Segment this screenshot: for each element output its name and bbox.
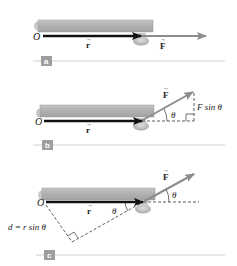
panel-c: O r → F → θ θ d = r sin θ c bbox=[8, 167, 225, 260]
panel-a: O r → F → a bbox=[33, 20, 225, 66]
angle-label-force: θ bbox=[172, 190, 177, 200]
svg-text:a: a bbox=[44, 57, 49, 66]
moment-arm-construction bbox=[46, 202, 199, 242]
bar bbox=[38, 188, 155, 200]
angle-arc-force bbox=[166, 189, 169, 202]
f-label: F → bbox=[163, 167, 169, 182]
torque-diagram: O r → F → a bbox=[0, 0, 237, 266]
svg-text:F: F bbox=[160, 41, 166, 51]
bar bbox=[34, 20, 153, 32]
right-angle-mark bbox=[68, 232, 78, 238]
bar bbox=[36, 105, 154, 118]
svg-text:→: → bbox=[160, 36, 166, 42]
svg-text:→: → bbox=[86, 121, 92, 127]
svg-text:→: → bbox=[163, 167, 169, 173]
origin-label: O bbox=[33, 31, 40, 42]
origin-label: O bbox=[37, 197, 44, 208]
f-label: F → bbox=[160, 36, 166, 51]
svg-text:→: → bbox=[87, 202, 93, 208]
angle-arc bbox=[164, 109, 167, 121]
r-label: r → bbox=[86, 121, 92, 135]
svg-text:F: F bbox=[163, 172, 169, 182]
angle-arc-inner bbox=[125, 202, 128, 211]
right-angle-mark bbox=[186, 114, 194, 121]
panel-b: O r → F → θ F sin θ b bbox=[33, 85, 225, 150]
moment-arm-label: d = r sin θ bbox=[8, 222, 47, 232]
svg-text:c: c bbox=[47, 251, 52, 260]
svg-text:→: → bbox=[86, 36, 92, 42]
r-label: r → bbox=[86, 36, 92, 50]
r-label: r → bbox=[87, 202, 93, 216]
svg-text:b: b bbox=[45, 141, 50, 150]
origin-label: O bbox=[35, 116, 42, 127]
svg-text:F: F bbox=[163, 90, 169, 100]
angle-label-inner: θ bbox=[112, 206, 117, 216]
angle-label: θ bbox=[171, 110, 176, 120]
svg-text:→: → bbox=[163, 85, 169, 91]
component-label: F sin θ bbox=[196, 102, 223, 112]
f-label: F → bbox=[163, 85, 169, 100]
